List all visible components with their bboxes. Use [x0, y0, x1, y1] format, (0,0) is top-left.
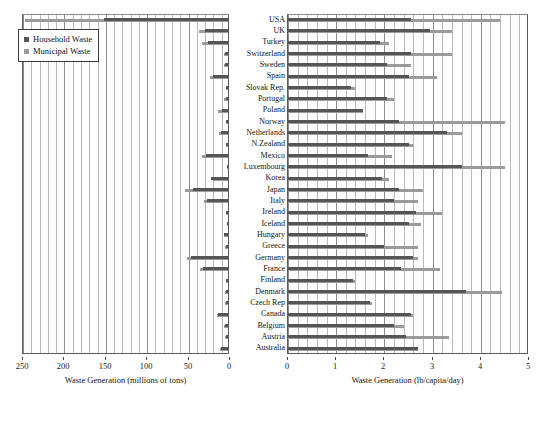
bar-row: [23, 151, 228, 162]
bar-row: [288, 230, 527, 241]
bar-household: [226, 86, 228, 89]
bar-row: [23, 242, 228, 253]
left-plot-area: [22, 14, 229, 354]
bar-household: [222, 109, 228, 112]
bar-row: [23, 332, 228, 343]
bar-row: [23, 219, 228, 230]
bar-household: [193, 188, 228, 191]
category-label-text: Iceland: [261, 220, 285, 228]
bar-row: [288, 60, 527, 71]
bar-row: [288, 83, 527, 94]
category-label: Hungary: [232, 229, 285, 240]
category-label: Czech Rep: [232, 297, 285, 308]
category-label: Switzerland: [232, 48, 285, 59]
right-axis-ticks: 012345: [287, 357, 528, 371]
bar-row: [23, 196, 228, 207]
bar-household: [288, 18, 411, 21]
bar-household: [288, 324, 394, 327]
bar-row: [23, 174, 228, 185]
bar-household: [221, 131, 228, 134]
bar-row: [288, 310, 527, 321]
category-label: Austria: [232, 331, 285, 342]
bar-row: [288, 344, 527, 354]
category-label: Italy: [232, 195, 285, 206]
bar-row: [288, 219, 527, 230]
bar-row: [288, 162, 527, 173]
axis-tickmark: [335, 357, 336, 360]
legend-item-household: Household Waste: [24, 33, 92, 45]
bar-row: [23, 72, 228, 83]
axis-tickmark: [63, 357, 64, 360]
bar-household: [288, 97, 387, 100]
bar-row: [288, 298, 527, 309]
bar-row: [288, 49, 527, 60]
bar-row: [23, 162, 228, 173]
legend-swatch-municipal-icon: [24, 49, 29, 54]
category-label-text: Mexico: [261, 152, 285, 160]
category-label: Canada: [232, 309, 285, 320]
axis-tick-label: 0: [227, 361, 231, 371]
category-label: Netherlands: [232, 127, 285, 138]
bar-household: [227, 165, 228, 168]
bar-row: [23, 94, 228, 105]
bar-row: [288, 208, 527, 219]
right-panel: 012345 Waste Generation (lb/capita/day): [287, 14, 528, 354]
left-bar-rows: [23, 15, 228, 353]
bar-household: [208, 41, 228, 44]
axis-tick-label: 4: [478, 361, 482, 371]
axis-tickmark: [22, 357, 23, 360]
bar-row: [288, 185, 527, 196]
category-label-text: Norway: [259, 118, 285, 126]
legend-label-municipal: Municipal Waste: [33, 45, 90, 57]
category-label-text: Korea: [265, 174, 285, 182]
category-label-text: Austria: [261, 333, 285, 341]
category-label-text: Japan: [267, 186, 285, 194]
category-label: Turkey: [232, 37, 285, 48]
bar-row: [23, 106, 228, 117]
category-label-text: Ireland: [262, 208, 285, 216]
bar-household: [288, 131, 447, 134]
legend-label-household: Household Waste: [33, 33, 92, 45]
bar-household: [104, 18, 228, 21]
category-label: Denmark: [232, 286, 285, 297]
bar-household: [224, 233, 228, 236]
bar-household: [218, 313, 228, 316]
bar-row: [288, 276, 527, 287]
category-label-text: N.Zealand: [251, 140, 285, 148]
bar-household: [288, 52, 411, 55]
bar-household: [213, 75, 228, 78]
axis-tick-label: 3: [430, 361, 434, 371]
bar-household: [225, 324, 228, 327]
bar-row: [23, 185, 228, 196]
category-label-text: Turkey: [262, 38, 285, 46]
bar-household: [288, 86, 351, 89]
bar-household: [226, 290, 228, 293]
bar-row: [288, 72, 527, 83]
bar-row: [288, 242, 527, 253]
axis-tickmark: [105, 357, 106, 360]
bar-row: [23, 208, 228, 219]
bar-household: [288, 41, 380, 44]
bar-row: [288, 174, 527, 185]
bar-row: [288, 264, 527, 275]
category-label-text: France: [263, 265, 285, 273]
bar-row: [288, 106, 527, 117]
category-label-text: USA: [269, 16, 285, 24]
bar-household: [227, 222, 228, 225]
category-label: Korea: [232, 173, 285, 184]
bar-row: [23, 140, 228, 151]
category-label: Belgium: [232, 320, 285, 331]
category-label-text: Belgium: [257, 322, 285, 330]
category-label: Poland: [232, 105, 285, 116]
left-axis-ticks: 250200150100500: [22, 357, 229, 371]
bar-household: [288, 120, 399, 123]
bar-row: [23, 128, 228, 139]
bar-household: [207, 199, 228, 202]
category-label: Greece: [232, 241, 285, 252]
category-label: Germany: [232, 252, 285, 263]
bar-household: [226, 245, 228, 248]
bar-row: [288, 140, 527, 151]
bar-household: [288, 347, 418, 350]
bar-household: [205, 29, 228, 32]
right-axis-title: Waste Generation (lb/capita/day): [287, 375, 528, 385]
